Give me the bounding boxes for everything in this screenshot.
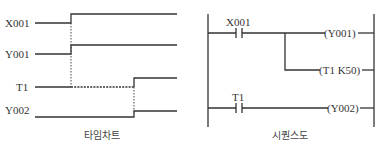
ladder-diagram: X001 (Y001) (T1 K50) T1 (Y002) 시퀀스도 (208, 14, 374, 141)
contact-x001 (208, 28, 285, 38)
waveform-y001 (35, 45, 177, 54)
coil-y001: (Y001) (324, 27, 356, 40)
signal-label-x001: X001 (5, 17, 29, 29)
diagram-canvas: X001 Y001 T1 Y002 타임차트 X001 (Y001) (T1 K… (0, 0, 386, 150)
timing-chart-caption: 타임차트 (84, 129, 120, 141)
contact-t1 (208, 103, 328, 113)
coil-t1-k50: (T1 K50) (319, 64, 361, 77)
waveform-x001 (35, 14, 177, 23)
contact-label-t1: T1 (232, 91, 244, 103)
ladder-caption: 시퀀스도 (272, 130, 308, 141)
timing-chart: X001 Y001 T1 Y002 타임차트 (5, 14, 177, 141)
signal-label-y002: Y002 (5, 104, 29, 116)
waveform-t1-high (134, 78, 177, 87)
contact-label-x001: X001 (226, 16, 250, 28)
signal-label-t1: T1 (16, 81, 28, 93)
coil-y002: (Y002) (327, 102, 359, 115)
waveform-y002 (35, 111, 177, 117)
signal-label-y001: Y001 (5, 48, 29, 60)
branch-wire (285, 33, 320, 70)
